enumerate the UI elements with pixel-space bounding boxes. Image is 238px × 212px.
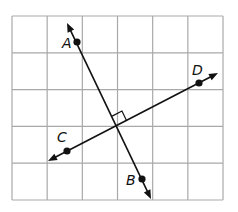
point-label-A: A: [61, 35, 72, 51]
line-AB: [70, 29, 148, 192]
point-C: [63, 147, 70, 154]
right-angle-marker: [112, 111, 127, 121]
point-label-D: D: [192, 62, 203, 78]
points-layer: ABCD: [57, 35, 203, 188]
point-label-B: B: [126, 172, 136, 188]
point-label-C: C: [57, 129, 67, 145]
point-D: [195, 79, 202, 86]
point-B: [138, 175, 145, 182]
grid: [12, 16, 223, 200]
perpendicular-lines-diagram: ABCD: [0, 0, 238, 212]
point-A: [73, 38, 80, 45]
right-angle-icon: [112, 111, 127, 121]
